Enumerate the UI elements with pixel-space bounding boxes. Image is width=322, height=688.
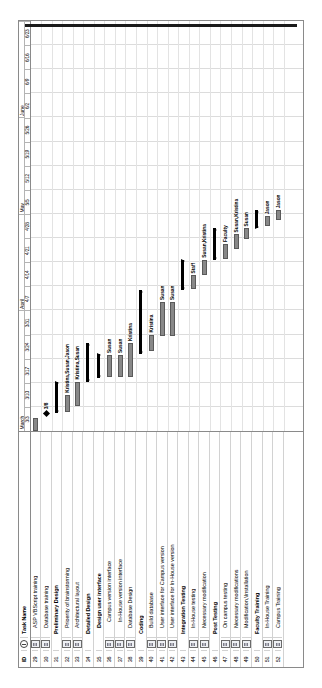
summary-bar[interactable] — [86, 343, 89, 382]
row-task-name[interactable]: Integration Testing — [180, 432, 186, 637]
row-indicator-cell[interactable] — [147, 637, 156, 650]
note-icon[interactable] — [157, 640, 166, 648]
table-row[interactable]: 50Faculty Training — [252, 432, 263, 667]
summary-bar[interactable] — [255, 210, 258, 228]
task-bar[interactable] — [202, 260, 207, 276]
table-row[interactable]: 47On campus testing — [220, 432, 231, 667]
table-row[interactable]: 38Database Design — [125, 432, 136, 667]
row-indicator-cell[interactable] — [189, 637, 198, 650]
table-row[interactable]: 43Integration Testing — [178, 432, 189, 667]
task-bar[interactable] — [265, 216, 270, 226]
row-task-name[interactable]: Architectural layout — [74, 432, 80, 637]
row-indicator-cell[interactable] — [157, 637, 166, 650]
note-icon[interactable] — [263, 640, 272, 648]
row-indicator-cell[interactable] — [126, 637, 135, 650]
row-indicator-cell[interactable] — [62, 637, 71, 650]
column-header-id[interactable]: ID — [21, 650, 27, 667]
row-indicator-cell[interactable] — [273, 637, 282, 650]
note-icon[interactable] — [73, 640, 82, 648]
milestone-marker[interactable] — [43, 410, 50, 417]
note-icon[interactable] — [147, 640, 156, 648]
row-task-name[interactable]: In-House Training — [264, 432, 270, 637]
row-task-name[interactable]: Modification,\Installation — [243, 432, 249, 637]
row-task-name[interactable]: User interface for Campus version — [159, 432, 165, 637]
note-icon[interactable] — [221, 640, 230, 648]
table-row[interactable]: 45Necessary modification — [199, 432, 210, 667]
table-row[interactable]: 51In-House Training — [263, 432, 274, 667]
task-bar[interactable] — [191, 275, 196, 288]
row-task-name[interactable]: Database training — [43, 432, 49, 637]
table-row[interactable]: 49Modification,\Installation — [241, 432, 252, 667]
column-header-indicator[interactable] — [20, 637, 28, 650]
row-task-name[interactable]: Coding — [138, 432, 144, 637]
row-indicator-cell[interactable] — [168, 637, 177, 650]
task-bar[interactable] — [234, 234, 239, 248]
row-indicator-cell[interactable] — [221, 637, 230, 650]
table-row[interactable]: 29ASP VBScript training — [31, 432, 42, 667]
task-bar[interactable] — [65, 395, 70, 412]
note-icon[interactable] — [126, 640, 135, 648]
row-indicator-cell[interactable] — [105, 637, 114, 650]
table-row[interactable]: 48Necessary modifications — [231, 432, 242, 667]
summary-bar[interactable] — [97, 354, 100, 378]
task-bar[interactable] — [149, 335, 154, 352]
task-bar[interactable] — [75, 382, 80, 406]
note-icon[interactable] — [62, 640, 71, 648]
note-icon[interactable] — [115, 640, 124, 648]
row-task-name[interactable]: Necessary modifications — [233, 432, 239, 637]
summary-bar[interactable] — [55, 382, 58, 413]
row-indicator-cell[interactable] — [200, 637, 209, 650]
task-bar[interactable] — [118, 355, 123, 377]
row-indicator-cell[interactable] — [231, 637, 240, 650]
table-row[interactable]: 33Architectural layout — [73, 432, 84, 667]
row-indicator-cell[interactable] — [263, 637, 272, 650]
table-row[interactable]: 52Campus Training — [273, 432, 284, 667]
note-icon[interactable] — [31, 640, 40, 648]
row-task-name[interactable]: On campus testing — [222, 432, 228, 637]
note-icon[interactable] — [200, 640, 209, 648]
table-row[interactable]: 41User interface for Campus version — [157, 432, 168, 667]
table-row[interactable]: 34Detailed Design — [83, 432, 94, 667]
task-bar[interactable] — [170, 302, 175, 336]
column-header-task-name[interactable]: Task Name — [21, 432, 27, 637]
row-task-name[interactable]: In-House version interface — [117, 432, 123, 637]
table-row[interactable]: 37In-House version interface — [115, 432, 126, 667]
summary-bar[interactable] — [139, 290, 142, 354]
table-row[interactable]: 46Post Testing — [210, 432, 221, 667]
note-icon[interactable] — [105, 640, 114, 648]
chart-grid[interactable]: 3/8Kristina,Susan,JasonKristina,SusanSus… — [31, 21, 304, 431]
row-indicator-cell[interactable] — [41, 637, 50, 650]
row-task-name[interactable]: Preliminary Design — [53, 432, 59, 637]
row-indicator-cell[interactable] — [73, 637, 82, 650]
row-task-name[interactable]: Campus Training — [275, 432, 281, 637]
note-icon[interactable] — [231, 640, 240, 648]
note-icon[interactable] — [242, 640, 251, 648]
row-task-name[interactable]: Faculty Training — [254, 432, 260, 637]
task-table[interactable]: ID Task Name 29ASP VBScript training30Da… — [19, 431, 303, 667]
table-row[interactable]: 31Preliminary Design — [52, 432, 63, 667]
table-row[interactable]: 44In-House testing — [189, 432, 200, 667]
row-task-name[interactable]: In-House testing — [190, 432, 196, 637]
row-task-name[interactable]: Necessary modification — [201, 432, 207, 637]
task-bar[interactable] — [276, 210, 281, 220]
table-row[interactable]: 36Campus version interface — [104, 432, 115, 667]
row-task-name[interactable]: Build database — [148, 432, 154, 637]
table-row[interactable]: 42User interface for In-House version — [168, 432, 179, 667]
row-task-name[interactable]: User interface for In-House version — [169, 432, 175, 637]
task-bar[interactable] — [128, 343, 133, 377]
table-row[interactable]: 39Coding — [136, 432, 147, 667]
task-bar[interactable] — [33, 418, 38, 431]
row-task-name[interactable]: Post Testing — [212, 432, 218, 637]
note-icon[interactable] — [41, 640, 50, 648]
row-task-name[interactable]: Prioerity of brainstorming — [64, 432, 70, 637]
row-task-name[interactable]: ASP VBScript training — [32, 432, 38, 637]
row-indicator-cell[interactable] — [31, 637, 40, 650]
row-task-name[interactable]: Campus version interface — [106, 432, 112, 637]
row-task-name[interactable]: Detailed Design — [85, 432, 91, 637]
row-indicator-cell[interactable] — [242, 637, 251, 650]
table-row[interactable]: 35Design user interface — [94, 432, 105, 667]
note-icon[interactable] — [273, 640, 282, 648]
summary-bar[interactable] — [181, 260, 184, 290]
table-row[interactable]: 40Build database — [147, 432, 158, 667]
task-bar[interactable] — [223, 244, 228, 258]
